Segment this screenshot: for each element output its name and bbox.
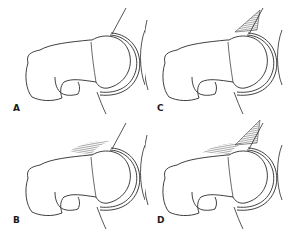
pincer-lesion-hatch (235, 120, 260, 145)
panel-label-c: C (157, 103, 164, 113)
panel-label-b: B (13, 215, 20, 225)
panel-a: A (0, 0, 145, 115)
hip-diagram-cam (0, 115, 145, 230)
hip-diagram-pincer (145, 0, 290, 115)
panel-label-d: D (157, 215, 164, 225)
hip-diagram-normal (0, 0, 145, 115)
pincer-lesion-hatch (235, 10, 260, 32)
panel-label-a: A (13, 103, 20, 113)
panel-c: C (145, 0, 290, 115)
cam-lesion-hatch (70, 141, 110, 155)
hip-diagram-mixed (145, 115, 290, 230)
panel-d: D (145, 115, 290, 230)
panel-b: B (0, 115, 145, 230)
